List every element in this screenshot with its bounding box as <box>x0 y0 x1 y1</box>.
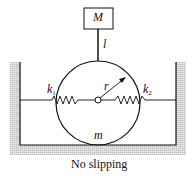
spring-k1 <box>20 96 96 104</box>
rod-length-label: l <box>103 38 106 50</box>
spring-k2-label: k2 <box>143 83 152 97</box>
disk-mass-label: m <box>94 129 103 141</box>
mass-label: M <box>93 11 103 23</box>
caption: No slipping <box>71 158 127 170</box>
diagram-canvas <box>0 0 195 176</box>
radius-label: r <box>104 80 109 92</box>
spring-k1-label: k1 <box>47 83 56 97</box>
spring-k2 <box>100 96 176 104</box>
